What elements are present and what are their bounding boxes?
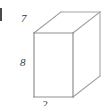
- dimension-label-width: 2: [42, 99, 48, 106]
- prism-diagram: [0, 0, 109, 106]
- prism-back-edges: [61, 12, 100, 76]
- dimension-label-depth: 7: [21, 13, 27, 24]
- rectangular-prism-figure: 7 8 2: [0, 0, 109, 106]
- edge-receding-top-left: [34, 12, 61, 33]
- edge-receding-top-right: [73, 12, 100, 33]
- edge-receding-bottom-right: [73, 76, 100, 97]
- dimension-label-height: 8: [20, 57, 26, 68]
- prism-front-face: [34, 33, 73, 97]
- clipped-left-edge-artifact: [0, 8, 2, 21]
- prism-receding-edges: [34, 12, 100, 97]
- dimension-label-width-clip: 2: [42, 99, 56, 106]
